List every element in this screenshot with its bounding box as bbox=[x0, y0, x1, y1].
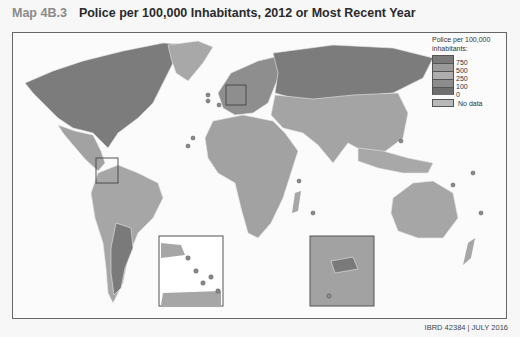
legend-label-250: 250 bbox=[456, 75, 468, 83]
legend-scale: 750 500 250 100 0 bbox=[432, 55, 498, 95]
legend-swatch-250 bbox=[432, 71, 454, 79]
southeast-asia bbox=[358, 148, 433, 173]
legend-swatch-500 bbox=[432, 63, 454, 71]
legend-label-0: 0 bbox=[456, 91, 460, 99]
australia bbox=[391, 181, 458, 238]
legend-swatch-750 bbox=[432, 55, 454, 63]
map-heading: Police per 100,000 Inhabitants, 2012 or … bbox=[79, 6, 416, 20]
legend: Police per 100,000 inhabitants: 750 500 … bbox=[432, 35, 498, 107]
legend-title-line1: Police per 100,000 bbox=[432, 35, 498, 44]
legend-swatch-0 bbox=[432, 87, 454, 95]
legend-no-data: No data bbox=[432, 99, 498, 107]
legend-label-750: 750 bbox=[456, 59, 468, 67]
north-america bbox=[25, 43, 193, 148]
madagascar bbox=[292, 191, 301, 213]
africa bbox=[205, 115, 298, 238]
greenland bbox=[168, 41, 213, 81]
legend-swatch-no-data bbox=[432, 99, 454, 107]
argentina bbox=[111, 223, 133, 295]
new-zealand bbox=[463, 238, 475, 265]
legend-label-100: 100 bbox=[456, 83, 468, 91]
map-credit: IBRD 42384 | JULY 2016 bbox=[425, 323, 508, 332]
world-map: Police per 100,000 inhabitants: 750 500 … bbox=[12, 32, 507, 319]
legend-title-line2: inhabitants: bbox=[432, 44, 498, 53]
legend-label-no-data: No data bbox=[458, 100, 483, 107]
russia bbox=[273, 45, 433, 101]
map-number: Map 4B.3 bbox=[12, 6, 67, 20]
legend-label-500: 500 bbox=[456, 67, 468, 75]
legend-swatch-100 bbox=[432, 79, 454, 87]
map-title: Map 4B.3Police per 100,000 Inhabitants, … bbox=[12, 6, 416, 20]
